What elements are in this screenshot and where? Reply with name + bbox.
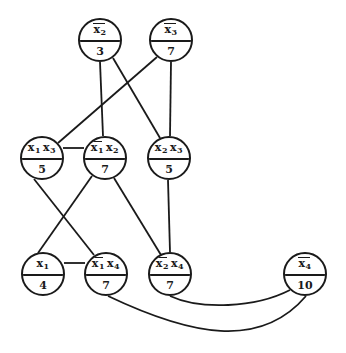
edge-n_x2x3-n_x2barx4 bbox=[168, 180, 170, 252]
node-weight: 7 bbox=[86, 276, 126, 294]
graph-node-n_x1barx2: x1x27 bbox=[83, 136, 127, 180]
edge-n_x2bar-n_x1barx2 bbox=[100, 62, 103, 136]
graph-node-n_x3bar: x37 bbox=[149, 18, 193, 62]
graph-node-n_x2bar: x23 bbox=[78, 18, 122, 62]
literal: x2 bbox=[155, 142, 168, 156]
literal: x1 bbox=[28, 142, 41, 156]
node-weight: 5 bbox=[22, 160, 62, 178]
edge-n_x1barx2-n_x2barx4 bbox=[114, 178, 161, 255]
edge-n_x3bar-n_x1x3 bbox=[58, 57, 157, 143]
literal: x3 bbox=[43, 142, 56, 156]
node-weight: 10 bbox=[285, 276, 325, 294]
literal: x1 bbox=[36, 258, 49, 272]
node-label: x1x3 bbox=[22, 138, 62, 158]
graph-node-n_x2x3: x2x35 bbox=[147, 136, 191, 180]
negated-literal: x4 bbox=[298, 258, 311, 272]
graph-diagram: x23x37x1x35x1x27x2x35x14x1x47x2x47x410 bbox=[0, 0, 346, 353]
edge-n_x1barx4-n_x4bar bbox=[108, 296, 306, 331]
literal: x2 bbox=[106, 142, 119, 156]
negated-literal: x2 bbox=[93, 24, 106, 38]
negated-literal: x1 bbox=[92, 258, 105, 272]
graph-node-n_x2barx4: x2x47 bbox=[148, 252, 192, 296]
edge-n_x2bar-n_x2x3 bbox=[113, 58, 160, 138]
node-label: x1 bbox=[23, 254, 63, 274]
node-weight: 4 bbox=[23, 276, 63, 294]
graph-node-n_x1: x14 bbox=[21, 252, 65, 296]
node-weight: 7 bbox=[85, 160, 125, 178]
literal: x4 bbox=[171, 258, 184, 272]
negated-literal: x1 bbox=[91, 142, 104, 156]
node-label: x2 bbox=[80, 20, 120, 40]
graph-node-n_x1barx4: x1x47 bbox=[84, 252, 128, 296]
node-weight: 3 bbox=[80, 42, 120, 60]
node-label: x3 bbox=[151, 20, 191, 40]
graph-node-n_x1x3: x1x35 bbox=[20, 136, 64, 180]
negated-literal: x3 bbox=[164, 24, 177, 38]
node-weight: 7 bbox=[150, 276, 190, 294]
graph-node-n_x4bar: x410 bbox=[283, 252, 327, 296]
node-label: x4 bbox=[285, 254, 325, 274]
literal: x4 bbox=[107, 258, 120, 272]
node-weight: 5 bbox=[149, 160, 189, 178]
node-weight: 7 bbox=[151, 42, 191, 60]
negated-literal: x2 bbox=[156, 258, 169, 272]
node-label: x1x2 bbox=[85, 138, 125, 158]
node-label: x2x4 bbox=[150, 254, 190, 274]
node-label: x1x4 bbox=[86, 254, 126, 274]
literal: x3 bbox=[170, 142, 183, 156]
edge-n_x3bar-n_x2x3 bbox=[170, 62, 171, 136]
node-label: x2x3 bbox=[149, 138, 189, 158]
